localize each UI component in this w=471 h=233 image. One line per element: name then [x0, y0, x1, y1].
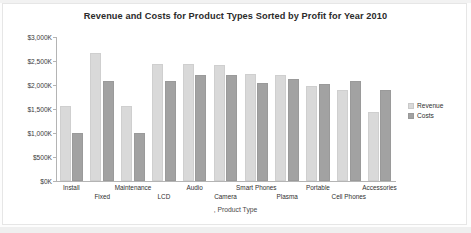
plot-area: [56, 37, 395, 181]
y-axis-tick-mark: [53, 85, 56, 86]
x-axis-tick-label: Plasma: [276, 193, 297, 200]
bar-costs[interactable]: [195, 75, 206, 181]
bar-costs[interactable]: [165, 81, 176, 181]
y-axis-tick-label: $2,500K: [4, 58, 52, 65]
legend-swatch-icon: [408, 113, 414, 119]
y-axis-tick-label: $2,000K: [4, 82, 52, 89]
x-axis-tick-label: Install: [63, 184, 80, 191]
x-axis-line: [56, 181, 396, 182]
y-axis-tick-label: $1,500K: [4, 106, 52, 113]
y-axis-tick-label: $500K: [4, 154, 52, 161]
bar-group: [333, 37, 364, 181]
bar-costs[interactable]: [257, 83, 268, 181]
y-axis-tick-mark: [53, 109, 56, 110]
y-axis-labels: $0K$500K$1,000K$1,500K$2,000K$2,500K$3,0…: [0, 0, 52, 233]
bar-revenue[interactable]: [245, 74, 256, 181]
bar-group: [303, 37, 334, 181]
y-axis-tick-label: $3,000K: [4, 34, 52, 41]
x-axis-tick-label: Fixed: [94, 193, 110, 200]
bar-revenue[interactable]: [183, 64, 194, 181]
bar-costs[interactable]: [72, 133, 83, 181]
y-axis-tick-mark: [53, 61, 56, 62]
bar-group: [272, 37, 303, 181]
bar-costs[interactable]: [134, 133, 145, 181]
bar-costs[interactable]: [380, 90, 391, 181]
y-axis-tick-mark: [53, 133, 56, 134]
bar-group: [56, 37, 87, 181]
legend-label: Revenue: [417, 102, 443, 109]
y-axis-tick-label: $0K: [4, 178, 52, 185]
x-axis-tick-label: LCD: [157, 193, 170, 200]
chart-screenshot: Revenue and Costs for Product Types Sort…: [0, 0, 471, 233]
bar-group: [364, 37, 395, 181]
x-axis-tick-label: Portable: [306, 184, 330, 191]
legend-swatch-icon: [408, 103, 414, 109]
bar-group: [210, 37, 241, 181]
x-axis-tick-label: Audio: [186, 184, 202, 191]
bar-revenue[interactable]: [60, 106, 71, 181]
bar-group: [241, 37, 272, 181]
bar-group: [148, 37, 179, 181]
x-axis-tick-label: Accessories: [362, 184, 396, 191]
bar-costs[interactable]: [319, 84, 330, 181]
bar-group: [179, 37, 210, 181]
bar-costs[interactable]: [226, 75, 237, 181]
bar-revenue[interactable]: [368, 112, 379, 181]
bar-revenue[interactable]: [121, 106, 132, 181]
bar-revenue[interactable]: [214, 65, 225, 181]
bar-group: [118, 37, 149, 181]
x-axis-title: , Product Type: [0, 206, 471, 213]
bar-revenue[interactable]: [152, 64, 163, 181]
y-axis-tick-label: $1,000K: [4, 130, 52, 137]
y-axis-tick-mark: [53, 157, 56, 158]
legend-label: Costs: [417, 112, 434, 119]
y-axis-tick-mark: [53, 37, 56, 38]
bar-costs[interactable]: [288, 79, 299, 181]
chart-title: Revenue and Costs for Product Types Sort…: [0, 11, 471, 21]
x-axis-tick-label: Cell Phones: [332, 193, 366, 200]
scan-edge-bottom: [0, 227, 471, 233]
bar-revenue[interactable]: [90, 53, 101, 181]
legend-item[interactable]: Revenue: [408, 101, 443, 110]
x-axis-tick-label: Camera: [214, 193, 237, 200]
x-axis-tick-label: Maintenance: [115, 184, 152, 191]
x-axis-tick-label: Smart Phones: [236, 184, 277, 191]
bar-revenue[interactable]: [337, 90, 348, 181]
legend-item[interactable]: Costs: [408, 111, 443, 120]
bar-costs[interactable]: [350, 81, 361, 181]
bar-revenue[interactable]: [275, 75, 286, 181]
y-axis-tick-mark: [53, 181, 56, 182]
chart-legend: RevenueCosts: [408, 101, 443, 121]
bar-group: [87, 37, 118, 181]
bar-costs[interactable]: [103, 81, 114, 181]
bar-revenue[interactable]: [306, 86, 317, 181]
